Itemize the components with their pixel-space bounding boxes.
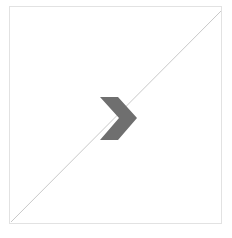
chevron-right-icon (100, 97, 137, 140)
diagonal-line (11, 11, 221, 222)
diagram-canvas (0, 0, 232, 238)
diagram-graphics (0, 0, 232, 238)
